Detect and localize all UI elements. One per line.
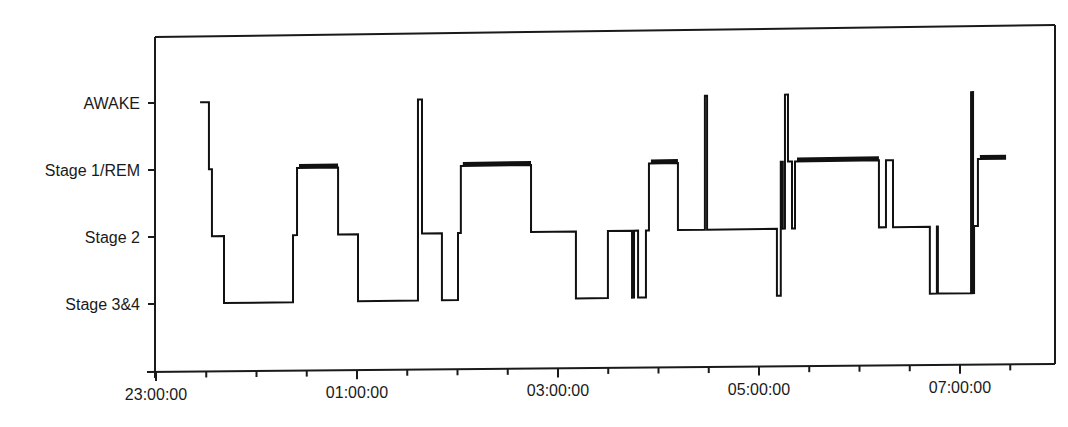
hypnogram-line — [200, 92, 1006, 303]
plot-frame — [147, 25, 1055, 378]
x-axis — [147, 364, 1055, 372]
rem-segment — [299, 166, 338, 167]
hypnogram-chart: AWAKEStage 1/REMStage 2Stage 3&4 23:00:0… — [0, 0, 1068, 427]
y-axis-labels: AWAKEStage 1/REMStage 2Stage 3&4 — [45, 95, 155, 313]
y-tick-label: AWAKE — [83, 95, 140, 112]
y-tick-label: Stage 1/REM — [45, 162, 140, 179]
x-tick-label: 01:00:00 — [326, 384, 388, 401]
x-tick-label: 07:00:00 — [929, 379, 991, 396]
top-border — [155, 25, 1055, 37]
x-tick-label: 03:00:00 — [527, 382, 589, 399]
rem-segment — [463, 163, 531, 164]
sleep-stage-series — [200, 92, 1006, 303]
x-tick-label: 05:00:00 — [728, 381, 790, 398]
x-tick-label: 23:00:00 — [125, 386, 187, 403]
y-tick-label: Stage 2 — [85, 229, 140, 246]
y-tick-label: Stage 3&4 — [65, 296, 140, 313]
rem-segment — [797, 158, 879, 159]
